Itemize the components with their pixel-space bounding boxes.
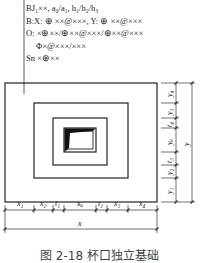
dim-t3: t₃ bbox=[165, 158, 174, 163]
dim-y1: y₁ bbox=[165, 187, 174, 195]
inner-step-outline bbox=[53, 118, 107, 165]
dim-y2: y₂ bbox=[165, 168, 174, 176]
dim-x2: x₂ bbox=[39, 199, 47, 208]
cup-inner bbox=[67, 131, 93, 149]
figure-caption: 图 2-18 杯口独立基础 bbox=[40, 246, 159, 263]
dim-xu: xᵤ bbox=[76, 199, 83, 208]
cup-shading bbox=[65, 129, 96, 152]
horizontal-dimension-labels: x₁ x₂ t₁ xᵤ t₂ x₃ x₄ x bbox=[16, 199, 146, 228]
dim-x4: x₄ bbox=[138, 199, 146, 208]
vertical-dimension-labels: y₁ y₂ t₃ yᵤ t₄ y₃ y₄ y bbox=[165, 90, 191, 195]
dim-x3: x₃ bbox=[113, 199, 121, 208]
dim-x1: x₁ bbox=[16, 199, 24, 208]
middle-step-outline bbox=[34, 103, 128, 178]
outer-step-outline bbox=[5, 83, 157, 202]
dim-t1: t₁ bbox=[55, 199, 60, 208]
dim-yu: yᵤ bbox=[165, 139, 174, 146]
dim-y-total: y bbox=[182, 142, 191, 147]
dim-t2: t₂ bbox=[98, 199, 103, 208]
dim-y4: y₄ bbox=[165, 90, 174, 98]
dim-t4: t₄ bbox=[165, 122, 174, 127]
dim-x-total: x bbox=[77, 219, 82, 228]
dim-y3: y₃ bbox=[165, 108, 174, 116]
